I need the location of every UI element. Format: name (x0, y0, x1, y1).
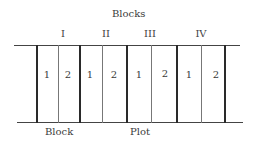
block-label-3: III (144, 29, 156, 39)
block-label-4: IV (195, 29, 206, 39)
plot-divider (102, 45, 103, 123)
block-divider (126, 45, 128, 123)
block-label-1: I (61, 29, 65, 39)
block-divider (79, 45, 81, 123)
plot-label: 1 (136, 70, 142, 80)
plot-label: 2 (65, 70, 71, 80)
plot-divider (58, 45, 59, 123)
block-divider (224, 45, 226, 123)
plot-label: 1 (186, 70, 192, 80)
plot-label: 2 (111, 70, 117, 80)
plot-divider (201, 45, 202, 123)
block-label-2: II (102, 29, 110, 39)
plot-label: 2 (162, 69, 168, 79)
plot-divider (151, 45, 152, 123)
plot-label: 2 (213, 70, 219, 80)
plot-label: 1 (44, 70, 50, 80)
diagram-title: Blocks (112, 9, 145, 19)
block-divider (36, 45, 38, 123)
bottom-boundary-line (17, 122, 243, 123)
plot-axis-label: Plot (130, 127, 150, 137)
block-divider (176, 45, 178, 123)
block-axis-label: Block (45, 127, 73, 137)
plot-label: 1 (87, 70, 93, 80)
